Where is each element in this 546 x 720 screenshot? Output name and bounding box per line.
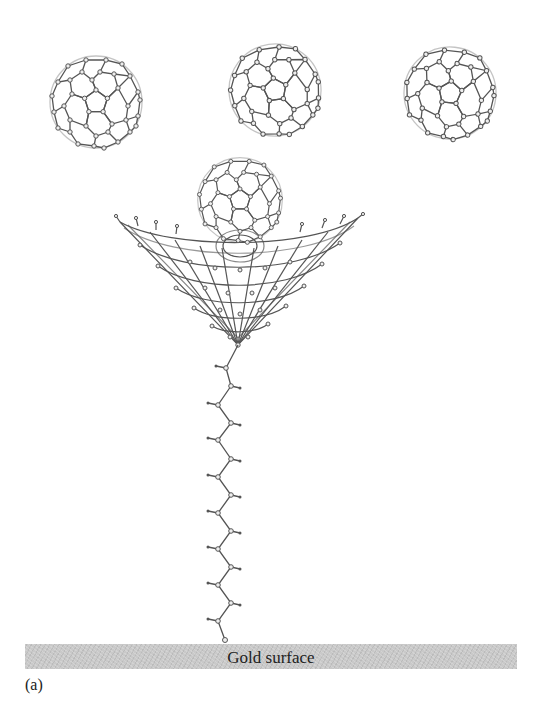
molecular-diagram: [0, 0, 546, 720]
alkyl-chain: [208, 345, 240, 640]
fullerene-1: [50, 56, 142, 150]
gold-surface: Gold surface: [25, 644, 517, 669]
fullerene-3: [399, 42, 501, 145]
gold-surface-label: Gold surface: [227, 648, 314, 668]
figure: Gold surface (a): [0, 0, 546, 720]
captured-fullerene: [197, 158, 282, 245]
fullerene-2: [223, 38, 328, 144]
panel-label: (a): [25, 676, 43, 694]
